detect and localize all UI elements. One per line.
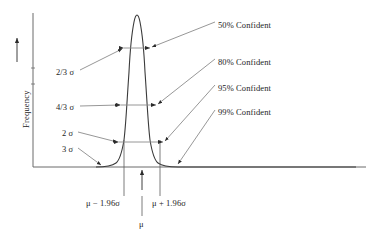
mean-label: μ — [139, 220, 144, 229]
sigma-label-2-3: 2/3 σ — [56, 68, 74, 77]
leader-sigma-2-3 — [80, 49, 122, 70]
confidence-label-80: 80% Confident — [218, 58, 271, 67]
upper-bound-label: μ + 1.96σ — [152, 199, 186, 208]
distribution-diagram-svg — [0, 0, 373, 240]
normal-distribution-figure: Frequency 50% Confident 80% Confident 95… — [0, 0, 373, 240]
lower-bound-label: μ − 1.96σ — [86, 199, 120, 208]
leader-conf-50 — [152, 22, 215, 47]
y-axis-label: Frequency — [21, 90, 31, 128]
confidence-label-99: 99% Confident — [218, 108, 271, 117]
confidence-label-95: 95% Confident — [218, 84, 271, 93]
leader-sigma-2 — [78, 132, 117, 142]
leader-sigma-3 — [78, 148, 101, 165]
sigma-label-4-3: 4/3 σ — [56, 103, 74, 112]
confidence-label-50: 50% Confident — [218, 21, 271, 30]
sigma-label-2: 2 σ — [62, 129, 73, 138]
leader-conf-80 — [158, 59, 215, 104]
sigma-label-3: 3 σ — [62, 145, 73, 154]
leader-conf-99 — [178, 110, 215, 164]
leader-conf-95 — [165, 85, 215, 141]
leader-sigma-4-3 — [80, 105, 119, 106]
